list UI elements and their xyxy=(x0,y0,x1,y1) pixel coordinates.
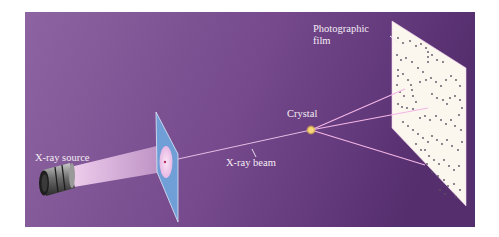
film-label-line2: film xyxy=(313,35,331,47)
crystal-label: Crystal xyxy=(287,108,317,120)
film-label-line1: Photographic xyxy=(313,23,369,35)
xray-beam-label: X-ray beam xyxy=(226,157,276,169)
xray-source-label: X-ray source xyxy=(35,152,90,164)
xray-diffraction-diagram: X-ray source X-ray beam Crystal Photogra… xyxy=(0,0,499,237)
diagram-canvas xyxy=(0,0,499,237)
